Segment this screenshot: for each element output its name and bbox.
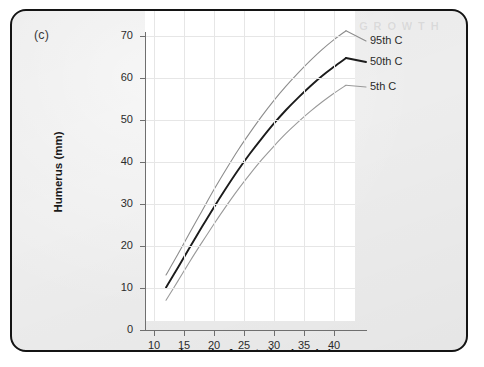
gridline-vertical [274, 11, 275, 321]
gridline-horizontal [145, 78, 355, 79]
scan-artifact-text: G R O W T H [359, 20, 440, 32]
gridline-vertical [184, 11, 185, 321]
plot-area [145, 11, 355, 321]
gridline-vertical [244, 11, 245, 321]
gridline-horizontal [145, 120, 355, 121]
gridline-vertical [334, 11, 335, 321]
y-tick [140, 288, 145, 289]
y-tick [140, 204, 145, 205]
y-axis-label: Humerus (mm) [52, 102, 64, 242]
x-axis-label: Length of gestation (weeks) [145, 347, 367, 352]
x-tick [304, 331, 305, 336]
y-tick [140, 36, 145, 37]
y-tick [140, 246, 145, 247]
y-tick [140, 330, 145, 331]
x-tick [154, 331, 155, 336]
gridline-horizontal [145, 288, 355, 289]
centile-curve [166, 58, 346, 288]
centile-label-50th-c: 50th C [370, 55, 402, 67]
centile-curves [145, 11, 355, 321]
centile-curve [166, 85, 346, 300]
y-tick-label: 30 [103, 197, 133, 209]
y-tick-label: 60 [103, 71, 133, 83]
centile-label-95th-c: 95th C [370, 34, 402, 46]
gridline-horizontal [145, 246, 355, 247]
x-tick [184, 331, 185, 336]
x-tick [274, 331, 275, 336]
x-tick [334, 331, 335, 336]
x-tick [214, 331, 215, 336]
y-tick-label: 0 [103, 323, 133, 335]
gridline-horizontal [145, 36, 355, 37]
figure-root: G R O W T H (c) 010203040506070 10152025… [0, 0, 484, 367]
y-tick-label: 20 [103, 239, 133, 251]
centile-label-5th-c: 5th C [370, 80, 396, 92]
gridline-vertical [154, 11, 155, 321]
gridline-horizontal [145, 204, 355, 205]
y-tick-label: 10 [103, 281, 133, 293]
y-tick-label: 70 [103, 29, 133, 41]
gridline-vertical [214, 11, 215, 321]
y-tick [140, 162, 145, 163]
x-tick [244, 331, 245, 336]
figure-panel: G R O W T H (c) 010203040506070 10152025… [10, 9, 468, 352]
y-tick-label: 50 [103, 113, 133, 125]
y-axis-line [145, 32, 146, 330]
y-tick [140, 120, 145, 121]
panel-label: (c) [34, 28, 49, 42]
y-tick-label: 40 [103, 155, 133, 167]
centile-curve [166, 31, 346, 275]
gridline-vertical [304, 11, 305, 321]
y-tick [140, 78, 145, 79]
gridline-horizontal [145, 162, 355, 163]
